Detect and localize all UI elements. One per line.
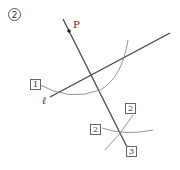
step-box-1: 1 [30,79,41,90]
step-box-3: 3 [126,146,137,157]
arc-step-1 [38,40,128,95]
line-l-label: ℓ [42,96,46,106]
construction-drawing [0,0,180,170]
arc-step-2a [102,128,153,133]
step-box-2-upper: 2 [125,103,136,114]
step-box-2-left: 2 [90,124,101,135]
point-p [67,29,71,33]
step-number-badge: 2 [8,8,21,21]
line-l [50,33,170,97]
point-p-label: P [73,20,80,30]
